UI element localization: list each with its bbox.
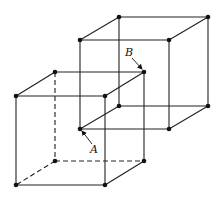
arrow-b-icon bbox=[132, 58, 142, 69]
back-cube-vertex bbox=[206, 104, 211, 109]
front-cube-edge bbox=[16, 161, 55, 185]
cubes-diagram: B A bbox=[0, 0, 221, 198]
front-cube-vertex bbox=[142, 159, 147, 164]
label-a: A bbox=[89, 143, 98, 156]
arrow-a-icon bbox=[82, 131, 92, 144]
front-cube-vertex bbox=[14, 183, 19, 188]
front-cube-vertex bbox=[14, 94, 19, 99]
back-cube-edge bbox=[80, 106, 119, 129]
back-cube-edge bbox=[169, 17, 208, 40]
back-cube-vertex bbox=[117, 104, 122, 109]
back-cube-vertex bbox=[78, 38, 83, 43]
front-cube-edge bbox=[105, 161, 144, 185]
back-cube-vertex bbox=[78, 127, 83, 132]
diagram-canvas: B A bbox=[0, 0, 221, 198]
front-cube-vertex bbox=[103, 94, 108, 99]
front-cube-vertex bbox=[53, 159, 58, 164]
back-cube-edge bbox=[80, 17, 119, 40]
front-cube-vertex bbox=[142, 70, 147, 75]
front-cube-vertex bbox=[53, 70, 58, 75]
front-cube-edge bbox=[105, 72, 144, 96]
back-cube-vertex bbox=[167, 127, 172, 132]
point-labels: B A bbox=[82, 46, 142, 156]
back-cube-vertex bbox=[206, 15, 211, 20]
front-cube-edge bbox=[16, 72, 55, 96]
back-cube-edge bbox=[169, 106, 208, 129]
front-cube-vertex bbox=[103, 183, 108, 188]
label-b: B bbox=[124, 46, 133, 59]
back-cube-vertex bbox=[167, 38, 172, 43]
back-cube-vertex bbox=[117, 15, 122, 20]
